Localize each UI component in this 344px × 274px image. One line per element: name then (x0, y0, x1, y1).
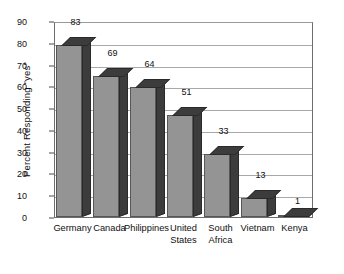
y-axis-tick-label: 0 (3, 213, 27, 223)
y-axis-title: Percent Responding "yes" (21, 20, 32, 220)
y-axis-tick-label: 80 (3, 39, 27, 49)
bar[interactable] (56, 23, 82, 217)
bar-chart: Percent Responding "yes" 010203040506070… (0, 0, 344, 274)
bar-front-face (241, 198, 267, 217)
bar-value-label: 83 (56, 17, 96, 27)
bar[interactable] (241, 23, 267, 217)
bar[interactable] (204, 23, 230, 217)
x-axis-label-line: Kenya (264, 223, 326, 235)
y-axis-tick-label: 90 (3, 17, 27, 27)
bar-top-face (283, 208, 318, 217)
bar-value-label: 64 (130, 59, 170, 69)
bar-value-label: 69 (93, 48, 133, 58)
bar-side-face (230, 151, 239, 217)
x-axis-category-label: Kenya (264, 223, 326, 235)
bar[interactable] (130, 23, 156, 217)
y-axis-tick-label: 40 (3, 126, 27, 136)
y-axis-tick-label: 10 (3, 191, 27, 201)
bar-front-face (93, 76, 119, 217)
y-axis-tick-label: 50 (3, 104, 27, 114)
y-axis-tick-label: 30 (3, 148, 27, 158)
bar-value-label: 1 (278, 196, 318, 206)
bar-side-face (193, 112, 202, 217)
bar[interactable] (278, 23, 304, 217)
bar-side-face (156, 83, 165, 217)
bar-side-face (82, 42, 91, 217)
y-axis-tick-label: 20 (3, 169, 27, 179)
bar-front-face (56, 45, 82, 217)
bar-front-face (130, 87, 156, 217)
y-axis-tick-label: 60 (3, 82, 27, 92)
bar[interactable] (167, 23, 193, 217)
bar-value-label: 51 (167, 87, 207, 97)
bar-value-label: 13 (241, 170, 281, 180)
y-axis-tick-label: 70 (3, 61, 27, 71)
bar-front-face (204, 154, 230, 217)
x-axis-label-line: Africa (190, 235, 252, 247)
bar-side-face (119, 72, 128, 217)
bar-value-label: 33 (204, 126, 244, 136)
bar-front-face (167, 115, 193, 217)
